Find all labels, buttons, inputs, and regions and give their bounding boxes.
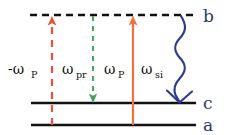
field-label-pump-main: ω [104,61,115,77]
field-label-pump-minus-sub: P [31,69,38,80]
transition-signal-idler-wave [174,16,185,101]
energy-level-svg: b c a -ω P ω pr ω P ω si [0,0,229,135]
transition-signal-idler [167,16,192,103]
transition-signal-idler-arrowhead-right [180,92,193,103]
transition-probe [89,16,97,103]
field-label-signal-idler-main: ω [141,61,152,77]
field-label-probe: ω pr [62,61,87,80]
level-label-c: c [203,93,213,113]
field-label-pump: ω P [104,61,125,80]
energy-level-diagram: b c a -ω P ω pr ω P ω si [0,0,229,135]
field-label-pump-minus: -ω P [8,61,38,80]
field-label-signal-idler-sub: si [155,69,163,80]
field-label-probe-sub: pr [76,69,87,80]
field-label-signal-idler: ω si [141,61,163,80]
transition-pump-minus [48,16,57,125]
field-label-probe-main: ω [62,61,73,77]
level-label-a: a [203,115,213,135]
transition-pump-minus-arrowhead [48,16,57,26]
level-label-b: b [203,6,214,26]
field-label-pump-minus-main: -ω [8,61,24,77]
transition-probe-arrowhead [89,94,97,104]
transition-pump [129,16,138,126]
field-label-pump-sub: P [118,69,125,80]
